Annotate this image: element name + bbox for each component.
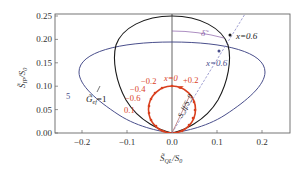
y-tick-label: 0.25 <box>36 11 52 21</box>
x-tick-label: −0.1 <box>119 137 135 147</box>
chart: x=0.6 x=0.6 δ̃ x=0 +0.2 −0.2 −0.4 −0.6 0… <box>0 0 308 170</box>
x-tick-label: −0.2 <box>74 137 90 147</box>
y-tick-label: 0.20 <box>36 34 52 44</box>
gef-leader-line <box>97 86 100 92</box>
y-tick-label: 0.00 <box>36 128 52 138</box>
annotation-blue-x: x=0.6 <box>205 58 228 68</box>
delta-arc <box>172 31 224 38</box>
annotation-red-x0: x=0 <box>163 73 179 83</box>
x-tick-label: 0.2 <box>256 137 267 147</box>
annotation-radius: S_lf/S_0 <box>176 92 195 119</box>
annotation-red-m06: −0.6 <box>125 93 140 103</box>
annotation-black-x: x=0.6 <box>235 31 258 41</box>
y-axis-label: S̃IP/S0 <box>17 68 28 88</box>
x-tick-label: 0.1 <box>211 137 222 147</box>
x-tick-label: 0.0 <box>166 137 178 147</box>
y-tick-label: 0.10 <box>36 81 52 91</box>
annotation-blue-5: 5 <box>66 91 70 101</box>
black-point-marker <box>229 34 232 37</box>
blue-point-marker <box>218 50 221 53</box>
y-tick-label: 0.15 <box>36 58 52 68</box>
y-tick-label: 0.05 <box>36 105 52 115</box>
annotation-red-01: 0.1 <box>124 105 135 115</box>
annotation-red-p02: +0.2 <box>183 75 198 85</box>
annotation-gef: G̃ef=1 <box>86 94 106 105</box>
x-axis-label: S̃QL/S0 <box>160 153 182 164</box>
annotation-delta: δ̃ <box>201 28 209 38</box>
